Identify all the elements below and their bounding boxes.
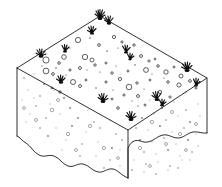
- soil-speck: [49, 103, 50, 104]
- soil-speck: [177, 167, 179, 169]
- soil-speck: [151, 141, 152, 142]
- soil-speck: [149, 99, 150, 100]
- soil-speck: [131, 100, 132, 101]
- soil-speck: [115, 133, 117, 135]
- soil-speck: [137, 105, 139, 107]
- soil-speck: [175, 143, 176, 144]
- soil-speck: [81, 143, 83, 145]
- soil-speck: [33, 73, 34, 74]
- soil-speck: [77, 117, 79, 119]
- soil-speck: [93, 121, 95, 123]
- soil-speck: [29, 113, 30, 114]
- soil-speck: [59, 113, 60, 114]
- soil-speck: [61, 149, 62, 150]
- pebble-outline: [149, 165, 152, 168]
- soil-speck: [197, 145, 198, 146]
- soil-speck: [89, 37, 90, 38]
- soil-speck: [121, 139, 123, 141]
- soil-speck: [115, 65, 116, 66]
- soil-speck: [155, 173, 157, 175]
- soil-speck: [63, 97, 65, 99]
- soil-speck: [85, 131, 86, 132]
- soil-speck: [151, 73, 152, 74]
- soil-speck: [135, 127, 137, 129]
- soil-speck: [95, 87, 96, 88]
- soil-speck: [119, 149, 120, 150]
- soil-speck: [53, 89, 54, 90]
- soil-speck: [109, 159, 111, 161]
- pebble-outline: [165, 143, 168, 146]
- soil-speck: [35, 105, 37, 107]
- soil-speck: [199, 115, 200, 116]
- soil-speck: [185, 109, 187, 111]
- soil-speck: [167, 169, 168, 170]
- soil-speck: [97, 141, 98, 142]
- soil-speck: [165, 119, 167, 121]
- soil-speck: [99, 127, 101, 129]
- soil-speck: [119, 165, 120, 166]
- soil-speck: [143, 151, 145, 153]
- soil-speck: [169, 165, 171, 167]
- soil-speck: [187, 139, 189, 141]
- soil-speck: [147, 129, 148, 130]
- soil-speck: [157, 161, 158, 162]
- soil-speck: [173, 101, 174, 102]
- soil-speck: [197, 103, 198, 104]
- soil-speck: [39, 127, 41, 129]
- soil-speck: [33, 97, 34, 98]
- soil-speck: [145, 163, 147, 165]
- soil-speck: [141, 117, 143, 119]
- soil-speck: [39, 95, 41, 97]
- soil-speck: [167, 149, 169, 151]
- soil-speck: [171, 131, 172, 132]
- soil-speck: [195, 133, 196, 134]
- soil-speck: [55, 127, 56, 128]
- soil-speck: [189, 121, 191, 123]
- soil-speck: [99, 71, 100, 72]
- soil-speck: [106, 50, 107, 51]
- soil-speck: [65, 139, 66, 140]
- soil-speck: [55, 67, 56, 68]
- soil-speck: [112, 89, 113, 90]
- soil-speck: [69, 47, 70, 48]
- soil-speck: [45, 117, 47, 119]
- soil-speck: [179, 155, 180, 156]
- soil-block-figure: [0, 0, 222, 187]
- soil-speck: [143, 88, 144, 89]
- soil-speck: [183, 127, 185, 129]
- soil-speck: [87, 109, 88, 110]
- soil-speck: [69, 107, 71, 109]
- soil-speck: [95, 155, 96, 156]
- soil-speck: [47, 135, 49, 137]
- soil-speck: [25, 121, 26, 122]
- soil-speck: [155, 153, 156, 154]
- soil-speck: [117, 47, 118, 48]
- soil-speck: [189, 159, 190, 160]
- soil-speck: [65, 74, 66, 75]
- soil-speck: [21, 99, 22, 100]
- pebble-outline: [138, 146, 141, 149]
- soil-speck: [111, 147, 113, 149]
- soil-speck: [131, 169, 133, 171]
- soil-speck: [133, 159, 134, 160]
- soil-speck: [143, 171, 144, 172]
- soil-speck: [134, 64, 135, 65]
- soil-speck: [103, 167, 105, 169]
- soil-speck: [71, 125, 73, 127]
- soil-block-illustration: Isometric soil block with grass tufts so…: [0, 0, 222, 187]
- soil-speck: [79, 155, 81, 157]
- soil-speck: [191, 151, 193, 153]
- soil-speck: [177, 115, 178, 116]
- soil-speck: [181, 159, 182, 160]
- soil-speck: [41, 65, 42, 66]
- soil-speck: [86, 69, 87, 70]
- pebble-outline: [185, 149, 188, 152]
- soil-speck: [159, 125, 161, 127]
- soil-speck: [27, 89, 28, 90]
- soil-speck: [163, 137, 165, 139]
- soil-speck: [163, 77, 164, 78]
- soil-speck: [23, 77, 25, 79]
